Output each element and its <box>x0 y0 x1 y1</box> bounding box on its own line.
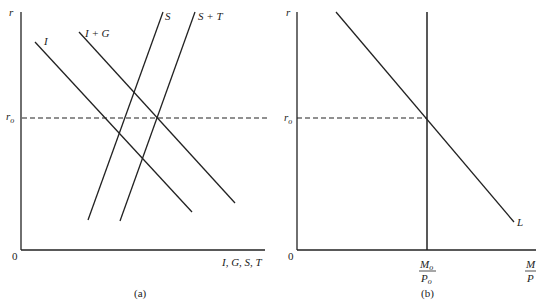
panel-a-caption: (a) <box>134 287 147 300</box>
curve-S <box>88 12 163 220</box>
panel-b: r 0 ro L Mo Po M P (b) <box>284 6 536 300</box>
svg-text:Po: Po <box>420 272 432 286</box>
panel-b-caption: (b) <box>421 287 434 300</box>
panel-b-origin: 0 <box>288 250 294 262</box>
panel-b-ref-label: ro <box>284 111 292 126</box>
svg-text:M: M <box>525 258 536 270</box>
curve-I-plus-G-label: I + G <box>84 27 110 39</box>
curve-S-plus-T-label: S + T <box>198 10 223 22</box>
supply-label-fraction: Mo Po <box>419 258 436 286</box>
curve-S-label: S <box>165 10 171 22</box>
curve-L-label: L <box>516 216 523 228</box>
diagram: r 0 I, G, S, T ro I I + G S S + T (a) r … <box>0 0 545 305</box>
liquidity-curve-L <box>336 12 514 222</box>
svg-text:Mo: Mo <box>419 258 433 272</box>
curve-S-plus-T <box>120 12 195 221</box>
curve-I-label: I <box>43 35 49 47</box>
panel-a: r 0 I, G, S, T ro I I + G S S + T (a) <box>6 6 270 300</box>
curve-I <box>35 42 192 212</box>
panel-a-y-label: r <box>9 6 14 18</box>
panel-a-ref-label: ro <box>6 110 14 125</box>
panel-a-x-label: I, G, S, T <box>221 256 263 268</box>
svg-text:P: P <box>526 272 534 284</box>
panel-a-origin: 0 <box>12 250 18 262</box>
panel-b-x-label-fraction: M P <box>525 258 536 284</box>
panel-b-y-label: r <box>286 6 291 18</box>
